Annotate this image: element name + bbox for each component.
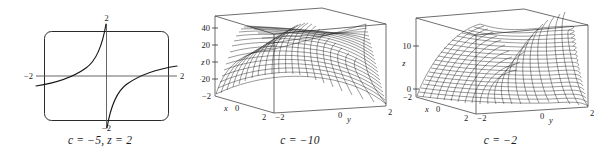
contour-tick-left: −2: [24, 71, 33, 81]
panel-contour: 2 −2 2 −2 c = −5, z = 2: [0, 0, 200, 164]
surface-c2-ztick-10: 10: [403, 41, 412, 51]
panel-surface-c10: 40 20 0 −20 z −2 0 2 x −2 0 2: [200, 0, 400, 164]
contour-tick-bottom: −2: [102, 123, 111, 132]
surface-c2-ytick-neg2: −2: [477, 113, 486, 123]
panel-contour-caption: c = −5, z = 2: [0, 134, 200, 146]
surface-c2-z-label: z: [401, 58, 406, 68]
surface-c2-ytick-2: 2: [590, 108, 594, 118]
surface-c10-xtick-neg2: −2: [202, 91, 211, 101]
contour-tick-right: 2: [180, 71, 184, 81]
surface-c10-x-label: x: [223, 103, 228, 113]
surface-c10-z-label: z: [200, 57, 205, 67]
surface-c2-xtick-2: 2: [464, 113, 468, 123]
surface-c10-ztick-40: 40: [202, 23, 211, 33]
surface-c10-x-ticks: −2 0 2: [202, 91, 266, 122]
surface-c10-ztick-neg20: −20: [200, 74, 210, 84]
surface-c2-xtick-0: 0: [436, 104, 440, 114]
surface-c10-y-label: y: [346, 114, 351, 124]
surface-c10-ztick-20: 20: [202, 40, 211, 50]
surface-c10-ytick-2: 2: [388, 107, 392, 117]
surface-c2-x-ticks: −2 0 2: [403, 92, 468, 123]
surface-c10-ytick-0: 0: [338, 110, 342, 120]
surface-c10-mesh: [216, 23, 386, 104]
panel-surface-c10-caption: c = −10: [200, 134, 400, 146]
surface-c10-ztick-0: 0: [206, 57, 210, 67]
surface-c10-plot-area: 40 20 0 −20 z −2 0 2 x −2 0 2: [200, 0, 400, 132]
surface-c2-mesh: [417, 12, 588, 106]
surface-c2-xtick-neg2: −2: [403, 92, 412, 102]
contour-plot-area: 2 −2 2 −2: [0, 0, 200, 132]
surface-c2-ytick-0: 0: [540, 111, 544, 121]
panel-surface-c2: 10 0 z −2 0 2 x −2 0 2 y: [400, 0, 601, 164]
surface-c2-plot-area: 10 0 z −2 0 2 x −2 0 2 y: [400, 0, 601, 132]
surface-c2-x-label: x: [424, 104, 429, 114]
surface-c2-y-label: y: [548, 115, 553, 125]
surface-c2-svg: 10 0 z −2 0 2 x −2 0 2 y: [400, 0, 601, 132]
surface-c10-box: [215, 8, 386, 113]
contour-svg: 2 −2 2 −2: [0, 0, 200, 132]
surface-c10-xtick-0: 0: [235, 103, 239, 113]
surface-c10-svg: 40 20 0 −20 z −2 0 2 x −2 0 2: [200, 0, 400, 132]
panel-surface-c2-caption: c = −2: [400, 134, 601, 146]
contour-tick-top: 2: [104, 13, 108, 23]
surface-c10-ytick-neg2: −2: [275, 112, 284, 122]
surface-c10-xtick-2: 2: [262, 112, 266, 122]
figure-row: 2 −2 2 −2 c = −5, z = 2: [0, 0, 601, 164]
